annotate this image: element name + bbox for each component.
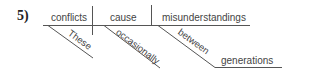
prepositional-object-word: generations: [221, 56, 273, 66]
direct-object-word: misunderstandings: [162, 13, 246, 23]
subject-word: conflicts: [51, 13, 87, 23]
verb-word: cause: [110, 13, 137, 23]
